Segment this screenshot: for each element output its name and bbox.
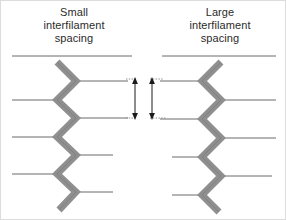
large-spacing-arrow xyxy=(149,77,155,120)
right-thin-filaments-left xyxy=(160,81,202,195)
spacing-annotation-group xyxy=(126,77,166,120)
right-panel-caption: Large interfilament spacing xyxy=(158,6,282,46)
interfilament-spacing-figure: Small interfilament spacing Large interf… xyxy=(0,0,286,220)
right-panel-group xyxy=(160,56,276,212)
left-panel-caption: Small interfilament spacing xyxy=(10,6,138,46)
left-thin-filaments-left xyxy=(12,100,56,174)
left-thin-filaments-right xyxy=(76,81,128,192)
arrowhead-up-right xyxy=(149,77,155,84)
small-spacing-arrow xyxy=(132,77,138,120)
arrowhead-up-left xyxy=(132,77,138,84)
right-thin-filaments-right xyxy=(222,100,276,176)
left-panel-group xyxy=(12,56,132,210)
arrowhead-down-left xyxy=(132,113,138,120)
right-thick-filament xyxy=(202,62,221,212)
arrowhead-down-right xyxy=(149,113,155,120)
